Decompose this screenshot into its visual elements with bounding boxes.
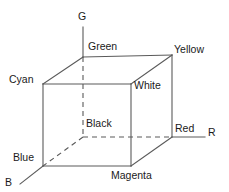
edge-black-blue xyxy=(43,137,83,166)
vertex-label-blue: Blue xyxy=(13,152,34,163)
vertex-label-cyan: Cyan xyxy=(9,74,34,85)
vertex-label-black: Black xyxy=(86,118,112,129)
edge-cyan-green xyxy=(43,57,83,84)
axis-label-b: B xyxy=(5,177,12,188)
axis-label-r: R xyxy=(208,127,216,138)
vertex-label-white: White xyxy=(134,80,161,91)
axis-label-g: G xyxy=(78,11,86,22)
vertex-label-red: Red xyxy=(175,123,194,134)
edge-green-yellow xyxy=(83,55,172,57)
vertex-label-magenta: Magenta xyxy=(111,170,152,181)
cube-wireframe xyxy=(0,0,229,192)
blue-axis-line xyxy=(20,166,43,184)
edge-magenta-red xyxy=(131,137,172,166)
rgb-color-cube-figure: G R B Green Yellow Cyan White Black Red … xyxy=(0,0,229,192)
vertex-label-green: Green xyxy=(88,41,117,52)
vertex-label-yellow: Yellow xyxy=(174,44,204,55)
